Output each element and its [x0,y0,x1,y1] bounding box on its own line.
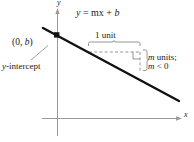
line-equation-label: y = mx + b [76,8,120,19]
x-axis-label: x [184,111,188,119]
y-intercept-text-label: y-intercept [2,62,40,71]
rise-label: m units; m < 0 [148,53,177,72]
y-intercept-point-label: (0, b) [12,38,33,48]
y-axis-label: y [57,0,61,7]
run-label: 1 unit [95,31,116,40]
y-intercept-marker [54,32,59,37]
rise-label-line2: m < 0 [148,62,177,71]
